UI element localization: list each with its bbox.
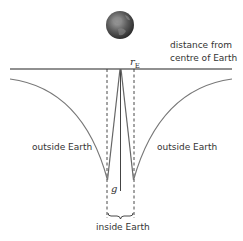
axis-label-line1: distance from: [170, 41, 232, 51]
inside-curve-left: [108, 69, 121, 180]
g-label: g: [111, 183, 117, 194]
earth-globe-icon: [106, 11, 134, 39]
outside-earth-left-label: outside Earth: [32, 143, 92, 153]
axis-label-line2: centre of Earth: [170, 54, 237, 64]
outside-earth-right-label: outside Earth: [157, 143, 217, 153]
inside-earth-brace: [108, 213, 133, 219]
inside-earth-label: inside Earth: [96, 223, 150, 233]
radius-subscript: E: [135, 62, 140, 70]
outside-curve-left: [10, 79, 108, 180]
inside-curve-right: [121, 69, 134, 180]
diagram-canvas: [0, 0, 243, 241]
outside-curve-right: [134, 79, 233, 180]
radius-label: rE: [130, 56, 140, 71]
